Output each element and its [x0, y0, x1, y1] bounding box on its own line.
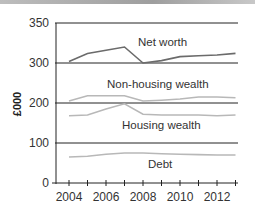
x-tick-2012: 2012: [204, 190, 231, 204]
x-tick-2006: 2006: [93, 190, 120, 204]
y-axis-label: £000: [11, 92, 23, 116]
x-tick-2008: 2008: [130, 190, 157, 204]
label-net-worth: Net worth: [138, 36, 187, 48]
label-non-housing-wealth: Non-housing wealth: [107, 78, 209, 90]
y-tick-200: 200: [29, 96, 49, 110]
y-tick-300: 300: [29, 56, 49, 70]
x-tick-2004: 2004: [56, 190, 83, 204]
series-non-housing-wealth: [69, 96, 236, 101]
series-debt: [69, 153, 236, 157]
y-tick-0: 0: [42, 176, 49, 190]
line-chart: 350 300 200 100 0 £000 2004 2006 2008 20…: [0, 0, 255, 218]
label-housing-wealth: Housing wealth: [122, 119, 201, 131]
series-net-worth: [69, 47, 236, 63]
y-tick-350: 350: [29, 16, 49, 30]
series-housing-wealth: [69, 104, 236, 116]
label-debt: Debt: [148, 158, 173, 170]
x-tick-2010: 2010: [167, 190, 194, 204]
y-tick-100: 100: [29, 136, 49, 150]
